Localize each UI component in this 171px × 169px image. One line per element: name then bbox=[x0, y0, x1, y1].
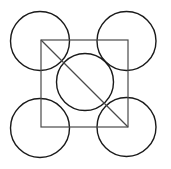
geometric-figure-svg bbox=[0, 0, 171, 169]
geometric-figure-canvas bbox=[0, 0, 171, 169]
